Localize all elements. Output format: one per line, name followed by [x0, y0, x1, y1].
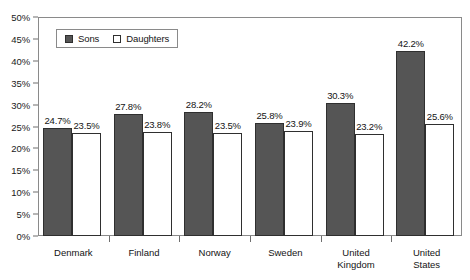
y-axis: 0%5%10%15%20%25%30%35%40%45%50%	[0, 0, 38, 280]
bar-sons	[184, 112, 213, 236]
bar-sons	[326, 103, 355, 236]
x-category-label: United States	[413, 247, 440, 271]
legend-label: Daughters	[126, 33, 169, 44]
bar-daughters	[143, 132, 172, 236]
bar-daughters	[425, 124, 454, 236]
bars-layer: 24.7%23.5%27.8%23.8%28.2%23.5%25.8%23.9%…	[38, 17, 462, 236]
chart-legend: SonsDaughters	[56, 29, 178, 48]
y-tick-label: 5%	[16, 209, 30, 220]
bar-value-label: 28.2%	[186, 99, 212, 110]
bar-sons	[396, 51, 425, 236]
bar-value-label: 25.6%	[427, 111, 453, 122]
bar-value-label: 42.2%	[398, 38, 424, 49]
y-tick-label: 45%	[11, 33, 30, 44]
bar-value-label: 23.8%	[144, 119, 170, 130]
x-separator-tick	[321, 236, 322, 242]
legend-item-daughters: Daughters	[113, 33, 169, 44]
y-tick-label: 10%	[11, 187, 30, 198]
filled-dark-swatch	[65, 35, 73, 43]
bar-daughters	[284, 131, 313, 236]
bar-daughters	[355, 134, 384, 236]
x-separator-tick	[109, 236, 110, 242]
y-tick-label: 25%	[11, 121, 30, 132]
bar-group: 24.7%23.5%	[38, 17, 109, 236]
bar-group: 42.2%25.6%	[391, 17, 462, 236]
y-tick-label: 0%	[16, 231, 30, 242]
bar-group: 27.8%23.8%	[109, 17, 180, 236]
bar-sons	[114, 114, 143, 236]
bar-daughters	[72, 133, 101, 236]
x-separator-tick	[250, 236, 251, 242]
bar-daughters	[213, 133, 242, 236]
x-category-label: Denmark	[54, 247, 93, 259]
bar-value-label: 30.3%	[327, 90, 353, 101]
y-tick-label: 50%	[11, 12, 30, 23]
y-tick-label: 15%	[11, 165, 30, 176]
bar-group: 28.2%23.5%	[179, 17, 250, 236]
bar-value-label: 25.8%	[257, 110, 283, 121]
open-white-swatch	[113, 35, 121, 43]
bar-value-label: 23.9%	[286, 118, 312, 129]
x-separator-tick	[179, 236, 180, 242]
bar-chart: 0%5%10%15%20%25%30%35%40%45%50% 24.7%23.…	[0, 0, 470, 280]
bar-value-label: 23.5%	[74, 120, 100, 131]
bar-value-label: 24.7%	[45, 115, 71, 126]
bar-value-label: 23.5%	[215, 120, 241, 131]
bar-sons	[43, 128, 72, 236]
x-category-label: Sweden	[268, 247, 302, 259]
x-category-label: Finland	[128, 247, 159, 259]
y-tick-label: 35%	[11, 77, 30, 88]
y-tick-label: 40%	[11, 55, 30, 66]
bar-value-label: 27.8%	[115, 101, 141, 112]
legend-label: Sons	[78, 33, 99, 44]
x-category-label: United Kingdom	[337, 247, 375, 271]
bar-group: 25.8%23.9%	[250, 17, 321, 236]
x-axis: DenmarkFinlandNorwaySwedenUnited Kingdom…	[38, 236, 462, 280]
x-separator-tick	[391, 236, 392, 242]
bar-value-label: 23.2%	[356, 121, 382, 132]
y-tick-label: 30%	[11, 99, 30, 110]
bar-group: 30.3%23.2%	[321, 17, 392, 236]
bar-sons	[255, 123, 284, 236]
y-tick-label: 20%	[11, 143, 30, 154]
x-category-label: Norway	[199, 247, 231, 259]
legend-item-sons: Sons	[65, 33, 99, 44]
